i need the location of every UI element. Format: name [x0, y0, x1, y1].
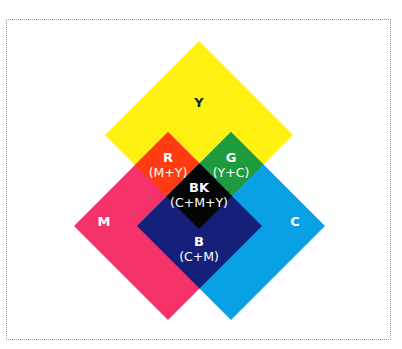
formula-bk: (C+M+Y) [170, 195, 228, 210]
label-g: G [226, 150, 237, 165]
cmy-diagram: Y M C R (M+Y) G (Y+C) BK (C+M+Y) B (C+M) [0, 0, 402, 349]
label-c: C [290, 214, 300, 229]
label-r: R [163, 150, 173, 165]
label-y: Y [193, 95, 204, 110]
formula-b: (C+M) [179, 249, 219, 264]
label-b: B [194, 234, 204, 249]
formula-r: (M+Y) [149, 165, 188, 180]
label-m: M [98, 214, 111, 229]
label-bk: BK [189, 180, 210, 195]
formula-g: (Y+C) [213, 165, 250, 180]
